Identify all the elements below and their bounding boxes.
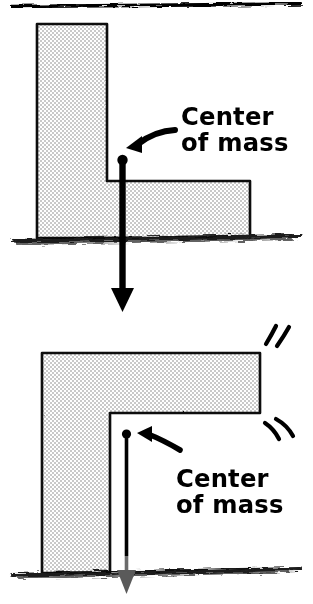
center-of-mass-dot-bottom bbox=[122, 429, 131, 438]
pointer-arrow-bottom bbox=[137, 426, 180, 450]
l-block-rotated bbox=[42, 353, 260, 573]
physics-figure-center-of-mass: Center of mass Center of mass bbox=[0, 0, 313, 604]
gravity-vector-bottom bbox=[117, 429, 136, 594]
center-of-mass-dot-top bbox=[117, 155, 127, 165]
center-of-mass-label-bottom: Center of mass bbox=[176, 466, 284, 518]
panel-stable-block bbox=[13, 24, 300, 312]
center-of-mass-label-top: Center of mass bbox=[181, 104, 289, 156]
top-divider-rule bbox=[11, 4, 302, 7]
pointer-arrow-top bbox=[126, 130, 175, 153]
motion-lines bbox=[265, 326, 293, 439]
panel-tipping-block bbox=[13, 326, 300, 594]
